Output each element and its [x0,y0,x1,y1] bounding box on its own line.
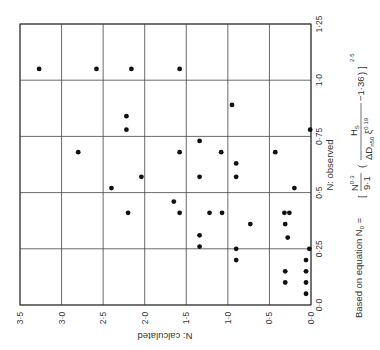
calculated-tick-label: 2·0 [140,312,150,325]
data-point [124,114,129,119]
observed-tick-label: 0·75 [314,128,324,145]
data-point [283,222,288,227]
observed-tick-label: 0·0 [314,299,324,312]
data-point [37,67,42,72]
data-point [197,233,202,238]
data-point [283,280,288,285]
svg-text:): ) [356,72,367,75]
observed-axis-ticks: 0·00·250·50·751·01·25 [314,15,324,311]
svg-text:ΔDn50 ξ0·19: ΔDn50 ξ0·19 [363,117,375,160]
data-point [109,186,114,191]
data-point [292,186,297,191]
observed-tick-label: 0·5 [314,186,324,199]
data-point [304,258,309,263]
data-point [304,280,309,285]
svg-text:HS: HS [348,125,360,136]
data-point [76,150,81,155]
calculated-tick-label: 2·5 [98,312,108,325]
data-point [197,138,202,143]
calculated-tick-label: 3·0 [57,312,67,325]
observed-tick-label: 1·0 [314,74,324,87]
data-point [307,246,312,251]
data-point [285,235,290,240]
scatter-chart: 0·00·51·01·52·02·53·03·5 0·00·250·50·751… [0,0,380,350]
data-point [230,103,235,108]
data-point [171,199,176,204]
data-point [207,210,212,215]
data-point [304,269,309,274]
equation-annotation: Based on equation N0 = [ N0·3 9·1 ( HS Δ… [348,53,375,318]
data-point [273,150,278,155]
svg-text:]: ] [356,66,367,69]
plot-frame [20,24,311,305]
data-point [282,210,287,215]
data-point [234,258,239,263]
svg-text:(: ( [356,164,367,168]
data-point [234,161,239,166]
data-point [177,67,182,72]
data-point [283,269,288,274]
svg-text:N0·3: N0·3 [349,175,360,191]
data-point [177,210,182,215]
calculated-axis-ticks: 0·00·51·01·52·02·53·03·5 [15,312,316,325]
data-point [129,67,134,72]
calculated-tick-label: 1·5 [181,312,191,325]
data-point [308,127,313,132]
data-point [139,174,144,179]
data-point [177,150,182,155]
calculated-tick-label: 1·0 [223,312,233,325]
data-point [234,174,239,179]
observed-tick-label: 1·25 [314,15,324,32]
data-point [304,291,309,296]
data-point [197,174,202,179]
data-point [220,210,225,215]
data-point [124,127,129,132]
observed-axis-label: N: observed [324,139,335,190]
svg-text:−1·36: −1·36 [355,76,366,101]
svg-text:Based on equation N0 =: Based on equation N0 = [353,217,365,318]
data-point [248,222,253,227]
data-point [234,246,239,251]
svg-text:9·1: 9·1 [361,176,372,190]
data-point [126,210,131,215]
calculated-tick-label: 0·5 [264,312,274,325]
svg-text:[: [ [356,195,367,198]
data-points [37,67,313,297]
data-point [287,210,292,215]
calculated-tick-label: 0·0 [306,312,316,325]
calculated-axis-label: N: calculated [138,331,193,342]
data-point [197,244,202,249]
data-point [94,67,99,72]
grid-lines [20,24,311,305]
data-point [219,150,224,155]
observed-tick-label: 0·25 [314,240,324,257]
calculated-tick-label: 3·5 [15,312,25,325]
svg-text:2·5: 2·5 [349,53,355,62]
